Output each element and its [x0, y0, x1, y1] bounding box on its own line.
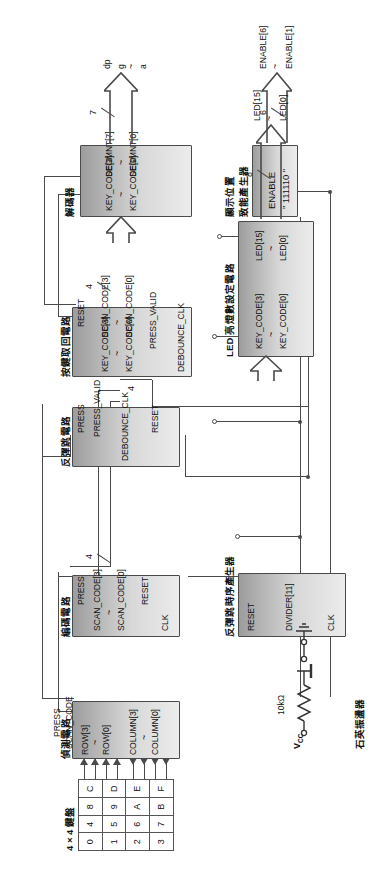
port-led-15: LED[15]	[254, 231, 264, 261]
signal-a: a	[138, 64, 148, 69]
key[interactable]: D	[103, 780, 127, 798]
block-enable-gen-label-1: 顯示位置	[222, 176, 236, 217]
signal-led-15: LED[15]	[252, 90, 262, 121]
wire	[44, 176, 80, 177]
key[interactable]: 3	[150, 833, 174, 851]
block-led-setting-circuit[interactable]	[238, 221, 314, 357]
wire	[58, 572, 59, 577]
junction-dot	[306, 475, 310, 479]
reset-terminal	[212, 334, 217, 339]
diagram-viewport: 4 × 4 鍵盤 0 4 8 C 1 5 9 D 2 6 A E 3 7 B F	[0, 0, 372, 877]
wire	[185, 435, 186, 477]
block-debounce-label: 反彈跳電路	[58, 416, 72, 467]
signal-enable-6: ENABLE[6]	[258, 26, 268, 69]
wire	[58, 195, 59, 317]
port-press-valid-in: PRESS_VALID	[148, 292, 158, 349]
reset-terminal	[217, 234, 222, 239]
oscillator-label: 石英振盪器	[352, 699, 366, 749]
port-clk-timing: CLK	[326, 615, 336, 631]
bus-width-4-keyfetch-out: 4	[84, 284, 94, 289]
port-key-code-3-led: KEY_CODE[3]	[254, 294, 264, 349]
key[interactable]: 7	[150, 815, 174, 833]
resistor-value-label: 10kΩ	[276, 695, 286, 715]
led-input-bus-arrow	[250, 355, 282, 381]
wire	[44, 177, 45, 305]
bus-width-4-encoder: 4	[84, 554, 94, 559]
key[interactable]: 1	[103, 833, 127, 851]
wire	[44, 304, 76, 305]
key[interactable]: B	[150, 798, 174, 816]
port-press-out: PRESS	[52, 708, 62, 737]
key[interactable]: F	[150, 780, 174, 798]
tilde: ~	[270, 64, 280, 69]
block-encoder-label: 編碼電路	[58, 596, 72, 637]
tilde: ~	[112, 351, 122, 356]
tilde: ~	[126, 64, 136, 69]
block-key-fetch-label: 按鍵取回電路	[58, 316, 72, 377]
wire	[58, 572, 59, 712]
port-column-0: COLUMN[0]	[150, 709, 160, 755]
port-scan-code-3: SCAN_CODE[3]	[92, 569, 102, 631]
junction-dot	[298, 420, 302, 424]
key[interactable]: C	[79, 780, 103, 798]
port-key-code-0-led: KEY_CODE[0]	[278, 294, 288, 349]
tilde: ~	[112, 320, 122, 325]
wire	[110, 401, 120, 402]
wire	[120, 379, 152, 380]
wire	[308, 395, 309, 407]
block-timing-gen-label: 反彈跳時序產生器	[222, 555, 236, 637]
reset-pushbutton-circuit	[294, 617, 320, 737]
tilde: ~	[264, 116, 274, 121]
key[interactable]: 8	[79, 798, 103, 816]
key[interactable]: 4	[79, 815, 103, 833]
key[interactable]: A	[126, 798, 150, 816]
decoder-output-bus-arrow	[104, 71, 138, 143]
port-column-3: COLUMN[3]	[128, 709, 138, 755]
block-diagram-canvas: 4 × 4 鍵盤 0 4 8 C 1 5 9 D 2 6 A E 3 7 B F	[0, 0, 372, 877]
bus-width-7-decoder: 7	[88, 110, 98, 115]
tilde: ~	[139, 735, 149, 740]
port-divider-11: DIVIDER[11]	[284, 584, 294, 631]
port-press-valid-out: PRESS_VALID	[92, 380, 102, 437]
wire	[42, 404, 43, 699]
keypad-label: 4 × 4 鍵盤	[62, 807, 76, 851]
signal-dp: dp	[102, 59, 112, 69]
junction-dot	[298, 535, 302, 539]
port-press-in-debounce: PRESS	[76, 404, 86, 433]
port-debounce-clk-keyfetch: DEBOUNCE_CLK	[176, 303, 186, 372]
wire	[70, 566, 110, 567]
key[interactable]: 2	[126, 833, 150, 851]
keypad-grid[interactable]: 0 4 8 C 1 5 9 D 2 6 A E 3 7 B F	[78, 779, 174, 851]
signal-led-0: LED[0]	[278, 95, 288, 121]
block-led-set-label: LED 亮燈數設定電路	[222, 263, 236, 357]
port-clk-in: CLK	[160, 615, 170, 631]
bus-width-4-keyfetch-in: 4	[126, 386, 136, 391]
port-led-0: LED[0]	[278, 235, 288, 261]
block-decoder-label: 解碼器	[62, 186, 76, 217]
decoder-input-bus-arrow	[106, 215, 136, 243]
port-scan-code-0: SCAN_CODE[0]	[116, 569, 126, 631]
signal-enable-1: ENABLE[1]	[284, 26, 294, 69]
port-row-3: ROW[3]	[80, 725, 90, 755]
key[interactable]: 6	[126, 815, 150, 833]
bus-width-8-led: 8	[244, 172, 254, 177]
led-output-bus-arrow	[256, 123, 286, 219]
junction-dot	[328, 190, 332, 194]
port-reset-keyfetch: RESET	[76, 299, 86, 327]
key[interactable]: 0	[79, 833, 103, 851]
key[interactable]: 5	[103, 815, 127, 833]
signal-g: g	[116, 64, 126, 69]
port-scan-code-0-in: SCAN_CODE[0]	[124, 275, 134, 337]
tilde: ~	[266, 332, 276, 337]
reset-terminal	[235, 534, 240, 539]
port-reset-in: RESET	[140, 577, 150, 605]
port-reset-in-debounce: RESET	[150, 405, 160, 433]
port-reset-timing: RESET	[246, 603, 256, 631]
tilde: ~	[266, 246, 276, 251]
key[interactable]: 9	[103, 798, 127, 816]
wire	[238, 536, 300, 537]
tilde: ~	[90, 740, 100, 745]
port-press-in: PRESS	[76, 576, 86, 605]
wire	[215, 421, 300, 422]
key[interactable]: E	[126, 780, 150, 798]
